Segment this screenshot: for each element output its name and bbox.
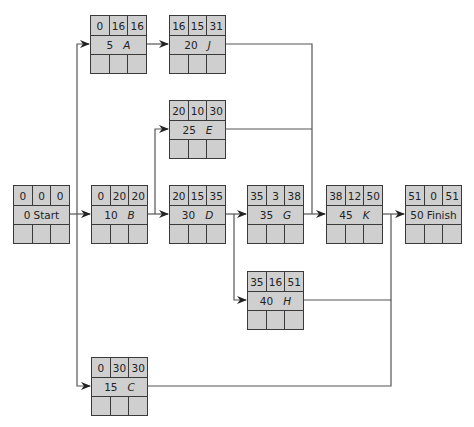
earliest-finish: 30 [128, 358, 147, 377]
node-top-row: 0 16 16 [91, 16, 146, 36]
empty-cell [110, 225, 129, 243]
earliest-start: 0 [91, 16, 109, 35]
activity-duration: 30 [182, 209, 195, 221]
node-label-row: 35 G [248, 205, 303, 225]
activity-node-d: 20 15 35 30 D [169, 185, 226, 244]
activity-duration: 15 [104, 381, 117, 393]
earliest-finish: 16 [127, 16, 146, 35]
node-top-row: 38 12 50 [327, 186, 382, 206]
empty-cell [206, 225, 225, 243]
node-label-row: 10 B [92, 205, 147, 225]
node-bottom-row [14, 225, 69, 243]
earliest-finish: 31 [206, 16, 225, 35]
empty-cell [206, 55, 225, 73]
node-top-row: 20 10 30 [170, 101, 225, 121]
earliest-start: 35 [248, 272, 266, 291]
earliest-start: 0 [92, 358, 110, 377]
earliest-start: 0 [14, 186, 32, 205]
node-top-row: 0 20 20 [92, 186, 147, 206]
connector-lines [0, 0, 474, 427]
activity-duration: 50 [410, 209, 423, 221]
empty-cell [284, 311, 303, 329]
activity-name: C [128, 381, 135, 393]
activity-node-j: 16 15 31 20 J [169, 15, 226, 74]
earliest-start: 16 [170, 16, 188, 35]
earliest-start: 20 [170, 101, 188, 120]
empty-cell [345, 225, 364, 243]
node-bottom-row [92, 225, 147, 243]
node-top-row: 51 0 51 [406, 186, 461, 206]
earliest-finish: 38 [284, 186, 303, 205]
slack: 15 [188, 16, 207, 35]
activity-duration: 25 [182, 124, 195, 136]
empty-cell [92, 225, 110, 243]
empty-cell [109, 55, 128, 73]
earliest-start: 0 [92, 186, 110, 205]
empty-cell [406, 225, 424, 243]
node-top-row: 0 30 30 [92, 358, 147, 378]
empty-cell [327, 225, 345, 243]
activity-node-c: 0 30 30 15 C [91, 357, 148, 416]
empty-cell [248, 311, 266, 329]
node-label-row: 5 A [91, 35, 146, 55]
earliest-start: 20 [170, 186, 188, 205]
node-bottom-row [91, 55, 146, 73]
earliest-finish: 51 [442, 186, 461, 205]
activity-name: A [123, 39, 130, 51]
empty-cell [14, 225, 32, 243]
slack: 10 [188, 101, 207, 120]
edge-d-h [234, 214, 246, 300]
empty-cell [266, 311, 285, 329]
activity-name: Finish [427, 209, 457, 221]
earliest-start: 51 [406, 186, 424, 205]
empty-cell [170, 140, 188, 158]
activity-node-k: 38 12 50 45 K [326, 185, 383, 244]
node-bottom-row [92, 397, 147, 415]
slack: 0 [424, 186, 443, 205]
activity-node-start: 0 0 0 0 Start [13, 185, 70, 244]
earliest-finish: 51 [284, 272, 303, 291]
earliest-finish: 35 [206, 186, 225, 205]
activity-name: G [283, 209, 291, 221]
activity-duration: 5 [107, 39, 114, 51]
node-label-row: 30 D [170, 205, 225, 225]
node-label-row: 40 H [248, 291, 303, 311]
node-bottom-row [170, 55, 225, 73]
empty-cell [50, 225, 69, 243]
node-bottom-row [406, 225, 461, 243]
edge-start-c [77, 214, 90, 386]
node-label-row: 20 J [170, 35, 225, 55]
activity-name: H [283, 295, 291, 307]
activity-name: K [363, 209, 370, 221]
empty-cell [442, 225, 461, 243]
node-label-row: 0 Start [14, 205, 69, 225]
activity-duration: 20 [184, 39, 197, 51]
edge-b-e [155, 129, 168, 214]
slack: 16 [266, 272, 285, 291]
empty-cell [284, 225, 303, 243]
empty-cell [92, 397, 110, 415]
empty-cell [363, 225, 382, 243]
slack: 3 [266, 186, 285, 205]
empty-cell [188, 55, 207, 73]
activity-node-e: 20 10 30 25 E [169, 100, 226, 159]
slack: 0 [32, 186, 51, 205]
empty-cell [266, 225, 285, 243]
empty-cell [128, 225, 147, 243]
activity-node-b: 0 20 20 10 B [91, 185, 148, 244]
empty-cell [206, 140, 225, 158]
activity-name: Start [34, 209, 60, 221]
activity-duration: 10 [104, 209, 117, 221]
node-top-row: 16 15 31 [170, 16, 225, 36]
slack: 12 [345, 186, 364, 205]
node-bottom-row [248, 311, 303, 329]
node-bottom-row [170, 225, 225, 243]
node-label-row: 25 E [170, 120, 225, 140]
empty-cell [32, 225, 51, 243]
activity-duration: 35 [260, 209, 273, 221]
node-label-row: 15 C [92, 377, 147, 397]
empty-cell [170, 55, 188, 73]
node-top-row: 35 3 38 [248, 186, 303, 206]
empty-cell [128, 397, 147, 415]
slack: 20 [110, 186, 129, 205]
